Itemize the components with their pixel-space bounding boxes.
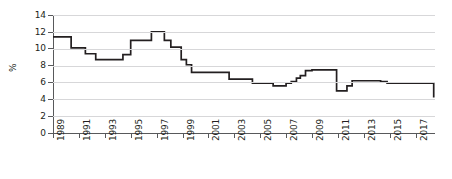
x-tick-mark — [390, 133, 391, 138]
x-tick-label: 1991 — [83, 119, 92, 141]
x-tick-mark — [53, 133, 54, 138]
x-tick-label: 2003 — [238, 119, 247, 141]
x-tick-label: 1989 — [57, 119, 66, 141]
x-tick-mark — [260, 133, 261, 138]
x-tick-label: 2013 — [368, 119, 377, 141]
x-tick-label: 2011 — [342, 119, 351, 141]
x-tick-label: 1997 — [161, 119, 170, 141]
y-tick-label: 14 — [0, 11, 46, 20]
x-tick-label: 2009 — [316, 119, 325, 141]
x-tick-label: 1999 — [187, 119, 196, 141]
y-tick-label: 4 — [0, 95, 46, 104]
y-tick-label: 2 — [0, 112, 46, 121]
x-tick-mark — [79, 133, 80, 138]
x-tick-mark — [183, 133, 184, 138]
y-tick-label: 0 — [0, 129, 46, 138]
x-tick-mark — [131, 133, 132, 138]
gridline — [53, 116, 435, 117]
y-tick-label: 10 — [0, 44, 46, 53]
x-tick-mark — [157, 133, 158, 138]
x-tick-label: 2005 — [264, 119, 273, 141]
gridline — [53, 32, 435, 33]
gridline — [53, 66, 435, 67]
series-path — [53, 32, 434, 98]
x-tick-mark — [338, 133, 339, 138]
x-tick-label: 2007 — [290, 119, 299, 141]
x-tick-label: 2015 — [394, 119, 403, 141]
y-tick-label: 8 — [0, 61, 46, 70]
gridline — [53, 15, 435, 16]
y-tick-label: 12 — [0, 28, 46, 37]
x-tick-mark — [234, 133, 235, 138]
x-tick-label: 1993 — [109, 119, 118, 141]
x-tick-mark — [105, 133, 106, 138]
x-tick-mark — [364, 133, 365, 138]
x-tick-label: 2017 — [420, 119, 429, 141]
y-axis-labels: 14 12 10 8 6 4 2 0 — [0, 0, 46, 179]
chart-container: % 14 12 10 8 6 4 2 0 1989199119931995199… — [0, 0, 452, 179]
x-tick-label: 1995 — [135, 119, 144, 141]
x-tick-mark — [286, 133, 287, 138]
gridline — [53, 49, 435, 50]
gridline — [53, 82, 435, 83]
x-tick-label: 2001 — [212, 119, 221, 141]
x-tick-mark — [208, 133, 209, 138]
y-tick-label: 6 — [0, 78, 46, 87]
plot-area — [53, 15, 435, 133]
x-tick-mark — [312, 133, 313, 138]
x-tick-mark — [416, 133, 417, 138]
gridline — [53, 99, 435, 100]
